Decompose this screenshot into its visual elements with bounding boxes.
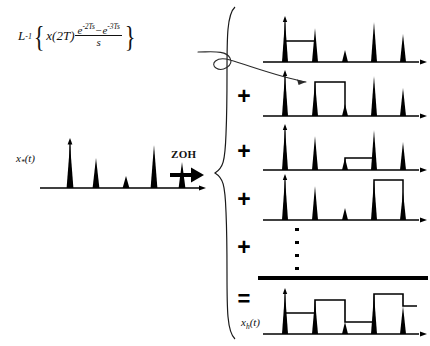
output-label-tail: (t) — [250, 316, 260, 328]
formula-operator: L — [18, 28, 25, 44]
ellipsis-dot — [295, 254, 298, 257]
summation-rule-line — [258, 276, 428, 280]
plus-sign-4: + — [231, 236, 257, 259]
decomposition-row-4-plot — [263, 172, 430, 228]
plus-sign-1: + — [231, 85, 257, 108]
zoh-arrow-icon — [168, 164, 208, 186]
formula-denominator: s — [97, 36, 101, 49]
formula-numerator: e-2Ts−e-3Ts — [75, 23, 122, 36]
formula-brace-open: { — [34, 24, 45, 48]
output-signal-label: xh(t) — [241, 316, 260, 331]
plus-sign-3: + — [231, 188, 257, 211]
formula-operator-exponent: -1 — [25, 32, 32, 41]
formula-num-exp2: -3Ts — [107, 22, 120, 31]
decomposition-row-2-plot — [263, 68, 430, 124]
formula-num-exp1: -2Ts — [82, 22, 95, 31]
ellipsis-dot — [295, 228, 298, 231]
plus-sign-2: + — [231, 140, 257, 163]
figure-canvas: L-1 { x(2T) e-2Ts−e-3Ts s } x*(t) ZOH — [0, 0, 430, 346]
laplace-formula: L-1 { x(2T) e-2Ts−e-3Ts s } — [18, 14, 218, 58]
vertical-ellipsis — [292, 228, 302, 270]
zoh-operator-label: ZOH — [171, 148, 196, 160]
ellipsis-dot — [295, 241, 298, 244]
formula-fraction: e-2Ts−e-3Ts s — [75, 23, 122, 50]
ellipsis-dot — [295, 267, 298, 270]
decomposition-row-1-plot — [263, 14, 430, 70]
formula-brace-close: } — [125, 24, 136, 48]
input-signal-label: x*(t) — [16, 152, 35, 167]
reconstructed-staircase-plot — [263, 286, 430, 342]
decomposition-row-3-plot — [263, 122, 430, 178]
input-label-tail: (t) — [25, 152, 35, 164]
equals-sign: = — [231, 288, 257, 310]
formula-amplitude-term: x(2T) — [46, 28, 74, 44]
